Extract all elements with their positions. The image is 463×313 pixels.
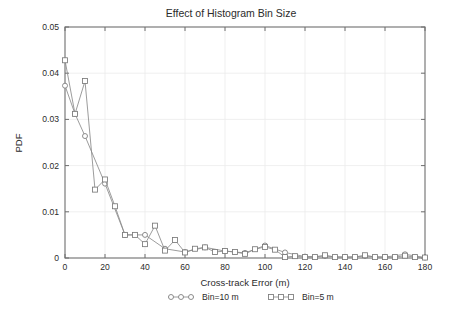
y-tick-label: 0.01 — [42, 207, 59, 217]
plot-frame — [65, 27, 425, 258]
data-point-square — [293, 254, 298, 259]
data-point-square — [223, 249, 228, 254]
data-point-circle — [63, 83, 68, 88]
chart-title: Effect of Histogram Bin Size — [166, 7, 297, 19]
series-line — [65, 86, 425, 258]
y-tick-label: 0.02 — [42, 161, 59, 171]
data-point-square — [303, 255, 308, 260]
data-series-1 — [63, 83, 428, 260]
data-point-circle — [143, 232, 148, 237]
data-point-square — [333, 255, 338, 260]
legend-marker-square — [269, 295, 274, 300]
data-point-square — [403, 253, 408, 258]
x-tick-label: 120 — [298, 262, 313, 272]
x-tick-label: 160 — [378, 262, 393, 272]
y-tick-label: 0 — [54, 253, 59, 263]
legend-marker-square — [289, 295, 294, 300]
data-point-square — [73, 111, 78, 116]
x-tick-label: 140 — [338, 262, 353, 272]
data-point-square — [233, 249, 238, 254]
data-point-square — [423, 255, 428, 260]
x-tick-label: 20 — [100, 262, 110, 272]
legend-entry-2[interactable]: Bin=5 m — [268, 292, 334, 302]
data-point-square — [93, 187, 98, 192]
data-point-square — [413, 255, 418, 260]
data-point-square — [383, 255, 388, 260]
legend-marker-circle — [189, 295, 194, 300]
legend-label: Bin=10 m — [202, 292, 239, 302]
data-point-square — [343, 255, 348, 260]
data-point-square — [263, 244, 268, 249]
data-point-square — [323, 253, 328, 258]
data-point-square — [133, 232, 138, 237]
data-point-square — [213, 249, 218, 254]
chart-canvas: 020406080100120140160180 00.010.020.030.… — [0, 0, 463, 313]
axes-border — [65, 27, 425, 258]
x-tick-label: 40 — [140, 262, 150, 272]
data-point-square — [173, 237, 178, 242]
data-point-square — [103, 177, 108, 182]
y-tick-label: 0.04 — [42, 68, 59, 78]
legend-entry-1[interactable]: Bin=10 m — [168, 292, 239, 302]
y-tick-label: 0.03 — [42, 114, 59, 124]
chart-figure: 020406080100120140160180 00.010.020.030.… — [0, 0, 463, 313]
data-point-square — [363, 253, 368, 258]
data-point-square — [203, 245, 208, 250]
data-point-square — [83, 79, 88, 84]
data-point-square — [243, 251, 248, 256]
data-point-square — [313, 255, 318, 260]
x-tick-label: 100 — [258, 262, 273, 272]
x-tick-labels: 020406080100120140160180 — [63, 262, 433, 272]
x-tick-label: 60 — [180, 262, 190, 272]
data-point-square — [273, 247, 278, 252]
x-tick-label: 180 — [418, 262, 433, 272]
data-point-square — [353, 255, 358, 260]
gridlines-layer — [65, 27, 425, 258]
data-point-square — [393, 255, 398, 260]
data-point-square — [113, 204, 118, 209]
data-series-2 — [63, 58, 428, 260]
legend-marker-square — [279, 295, 284, 300]
data-point-square — [163, 248, 168, 253]
data-point-square — [253, 247, 258, 252]
legend-marker-circle — [169, 295, 174, 300]
data-point-square — [193, 246, 198, 251]
x-tick-label: 0 — [63, 262, 68, 272]
axis-ticks — [65, 27, 425, 258]
legend-marker-circle — [179, 295, 184, 300]
data-point-square — [373, 255, 378, 260]
data-point-circle — [83, 134, 88, 139]
chart-legend: Bin=10 mBin=5 m — [168, 292, 334, 302]
legend-label: Bin=5 m — [302, 292, 334, 302]
series-layer — [63, 58, 428, 260]
y-tick-label: 0.05 — [42, 22, 59, 32]
series-line — [65, 60, 425, 257]
y-tick-labels: 00.010.020.030.040.05 — [42, 22, 59, 263]
x-tick-label: 80 — [220, 262, 230, 272]
x-axis-label: Cross-track Error (m) — [200, 277, 289, 288]
data-point-square — [283, 255, 288, 260]
y-axis-label: PDF — [13, 133, 24, 152]
data-point-square — [143, 242, 148, 247]
data-point-square — [123, 232, 128, 237]
data-point-square — [183, 250, 188, 255]
data-point-square — [153, 223, 158, 228]
data-point-square — [63, 58, 68, 63]
